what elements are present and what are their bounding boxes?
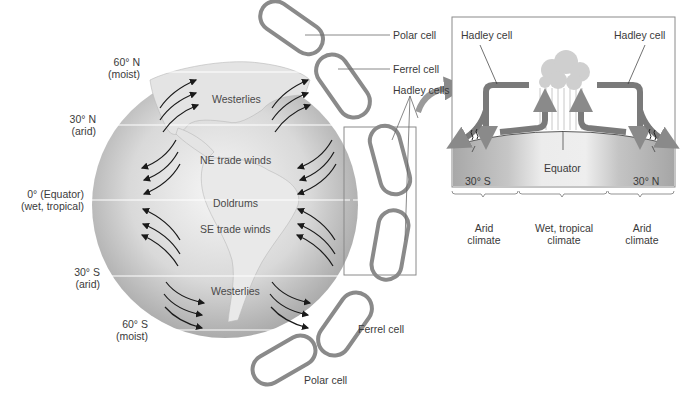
wind-belt-doldrums: Doldrums [213, 197, 258, 209]
hadley-cell-south [369, 208, 411, 282]
label-ferrel-cell-south: Ferrel cell [358, 323, 404, 335]
latitude-climate: (moist) [64, 68, 140, 80]
inset-label-hadley-right: Hadley cell [614, 29, 665, 41]
latitude-value: 30° S [24, 266, 100, 278]
wind-belt-se-trades: SE trade winds [200, 223, 271, 235]
inset-label-hadley-left: Hadley cell [461, 29, 512, 41]
climate-label-arid-north: Arid climate [620, 222, 664, 246]
latitude-label-equator: 0° (Equator) (wet, tropical) [0, 188, 84, 212]
climate-label-arid-south: Arid climate [462, 222, 506, 246]
climate-label-wet-tropical: Wet, tropical climate [526, 222, 602, 246]
latitude-value: 60° S [72, 318, 148, 330]
latitude-climate: (arid) [20, 125, 96, 137]
wind-belt-ne-trades: NE trade winds [200, 154, 271, 166]
inset-label-equator: Equator [544, 162, 581, 174]
climate-type: Arid [462, 222, 506, 234]
latitude-label-60n: 60° N (moist) [64, 56, 140, 80]
climate-type: Wet, tropical [526, 222, 602, 234]
climate-type: Arid [620, 222, 664, 234]
latitude-value: 0° (Equator) [0, 188, 84, 200]
latitude-label-30s: 30° S (arid) [24, 266, 100, 290]
latitude-climate: (wet, tropical) [0, 200, 84, 212]
climate-word: climate [620, 234, 664, 246]
wind-belt-westerlies-north: Westerlies [212, 93, 261, 105]
label-ferrel-cell-north: Ferrel cell [393, 63, 439, 75]
inset-label-30n: 30° N [633, 175, 659, 187]
latitude-label-60s: 60° S (moist) [72, 318, 148, 342]
latitude-label-30n: 30° N (arid) [20, 113, 96, 137]
latitude-climate: (arid) [24, 278, 100, 290]
latitude-value: 30° N [20, 113, 96, 125]
climate-word: climate [462, 234, 506, 246]
label-polar-cell-south: Polar cell [304, 374, 347, 386]
latitude-climate: (moist) [72, 330, 148, 342]
inset-label-30s: 30° S [465, 175, 491, 187]
label-polar-cell-north: Polar cell [393, 29, 436, 41]
polar-cell-north [254, 0, 329, 60]
label-hadley-cells: Hadley cells [393, 84, 450, 96]
latitude-value: 60° N [64, 56, 140, 68]
climate-word: climate [526, 234, 602, 246]
wind-belt-westerlies-south: Westerlies [211, 285, 260, 297]
